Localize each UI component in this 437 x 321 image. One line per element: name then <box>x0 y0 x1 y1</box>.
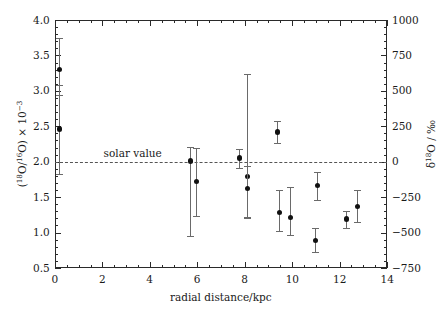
y-axis-right-tick-label: 250 <box>392 121 412 132</box>
x-axis-minor-tick-top <box>304 20 305 23</box>
error-bar-cap-upper <box>354 190 361 191</box>
y-axis-right-minor-tick <box>384 77 387 78</box>
error-bar-cap-lower <box>274 143 281 144</box>
y-axis-right-minor-tick <box>384 225 387 226</box>
y-axis-right-minor-tick <box>384 176 387 177</box>
error-bar-cap-lower <box>236 168 243 169</box>
x-axis-minor-tick <box>268 265 269 268</box>
y-axis-right-minor-tick <box>384 112 387 113</box>
x-axis-minor-tick <box>79 265 80 268</box>
y-axis-left-major-tick <box>55 55 61 56</box>
y-axis-right-minor-tick <box>384 119 387 120</box>
y-axis-right-minor-tick <box>384 247 387 248</box>
error-bar-cap-upper <box>274 121 281 122</box>
y-axis-right-major-tick <box>381 126 387 127</box>
error-bar-cap-upper <box>236 149 243 150</box>
x-axis-minor-tick-top <box>126 20 127 23</box>
x-axis-minor-tick-top <box>328 20 329 23</box>
y-axis-right-minor-tick <box>384 34 387 35</box>
y-axis-left-tick-label: 2.5 <box>33 121 50 132</box>
x-axis-minor-tick <box>221 265 222 268</box>
error-bar-cap-lower <box>314 200 321 201</box>
x-axis-minor-tick <box>91 265 92 268</box>
error-bar-cap-lower <box>287 235 294 236</box>
y-axis-left-minor-tick <box>55 41 58 42</box>
error-bar-cap-upper <box>244 74 251 75</box>
y-axis-left-minor-tick <box>55 240 58 241</box>
x-axis-minor-tick <box>316 265 317 268</box>
y-axis-right-tick-label: 0 <box>392 156 399 167</box>
y-axis-right-minor-tick <box>384 240 387 241</box>
x-axis-tick-label: 2 <box>99 274 106 285</box>
x-axis-minor-tick <box>280 265 281 268</box>
error-bar-cap-lower <box>276 231 283 232</box>
x-axis-tick-label: 8 <box>241 274 248 285</box>
y-axis-right-tick-label: −500 <box>392 227 421 238</box>
x-axis-minor-tick-top <box>316 20 317 23</box>
y-axis-left-minor-tick <box>55 77 58 78</box>
y-axis-right-minor-tick <box>384 211 387 212</box>
y-axis-right-major-tick <box>381 20 387 21</box>
x-axis-minor-tick <box>114 265 115 268</box>
x-axis-minor-tick <box>138 265 139 268</box>
y-axis-left-minor-tick <box>55 225 58 226</box>
y-axis-left-minor-tick <box>55 105 58 106</box>
y-axis-right-minor-tick <box>384 190 387 191</box>
x-axis-tick-label: 0 <box>52 274 59 285</box>
y-axis-left-minor-tick <box>55 48 58 49</box>
x-axis-major-tick-top <box>340 20 341 26</box>
error-bar-cap-upper <box>56 85 63 86</box>
x-axis-minor-tick <box>209 265 210 268</box>
x-axis-minor-tick-top <box>233 20 234 23</box>
y-axis-right-major-tick <box>381 91 387 92</box>
x-axis-major-tick-top <box>102 20 103 26</box>
x-axis-major-tick-top <box>387 20 388 26</box>
y-axis-left-minor-tick <box>55 247 58 248</box>
y-axis-left-minor-tick <box>55 218 58 219</box>
y-axis-left-minor-tick <box>55 183 58 184</box>
y-axis-left-minor-tick <box>55 190 58 191</box>
error-bar-cap-lower <box>312 252 319 253</box>
error-bar-cap-upper <box>193 148 200 149</box>
x-axis-minor-tick <box>174 265 175 268</box>
x-axis-major-tick <box>245 262 246 268</box>
x-axis-minor-tick-top <box>280 20 281 23</box>
x-axis-minor-tick-top <box>257 20 258 23</box>
x-axis-minor-tick <box>328 265 329 268</box>
y-axis-right-minor-tick <box>384 169 387 170</box>
y-axis-right-major-tick <box>381 197 387 198</box>
x-axis-major-tick-top <box>197 20 198 26</box>
error-bar-cap-upper <box>343 211 350 212</box>
x-axis-major-tick-top <box>245 20 246 26</box>
y-axis-left-minor-tick <box>55 63 58 64</box>
y-axis-left-minor-tick <box>55 148 58 149</box>
y-axis-left-major-tick <box>55 91 61 92</box>
y-axis-right-minor-tick <box>384 70 387 71</box>
y-axis-left-tick-label: 4.0 <box>33 15 50 26</box>
y-axis-right-tick-label: −750 <box>392 263 421 274</box>
error-bar-cap-lower <box>343 228 350 229</box>
y-axis-right-minor-tick <box>384 41 387 42</box>
y-axis-left-major-tick <box>55 233 61 234</box>
x-axis-tick-label: 10 <box>286 274 299 285</box>
x-axis-minor-tick-top <box>67 20 68 23</box>
y-axis-right-tick-label: 1000 <box>392 15 419 26</box>
y-axis-right-minor-tick <box>384 148 387 149</box>
y-axis-right-minor-tick <box>384 140 387 141</box>
error-bar-cap-lower <box>187 236 194 237</box>
y-axis-left-minor-tick <box>55 112 58 113</box>
plot-frame <box>55 20 387 268</box>
y-axis-right-minor-tick <box>384 204 387 205</box>
y-axis-left-minor-tick <box>55 155 58 156</box>
y-axis-right-major-tick <box>381 268 387 269</box>
y-axis-right-minor-tick <box>384 84 387 85</box>
x-axis-minor-tick-top <box>351 20 352 23</box>
y-axis-left-major-tick <box>55 268 61 269</box>
y-axis-left-minor-tick <box>55 133 58 134</box>
y-axis-left-title: (18O/16O) × 10−3 <box>16 101 28 188</box>
y-axis-right-title: δ18O / ‰ <box>425 120 437 168</box>
y-axis-right-minor-tick <box>384 218 387 219</box>
y-axis-left-major-tick <box>55 20 61 21</box>
y-axis-right-tick-label: 750 <box>392 50 412 61</box>
